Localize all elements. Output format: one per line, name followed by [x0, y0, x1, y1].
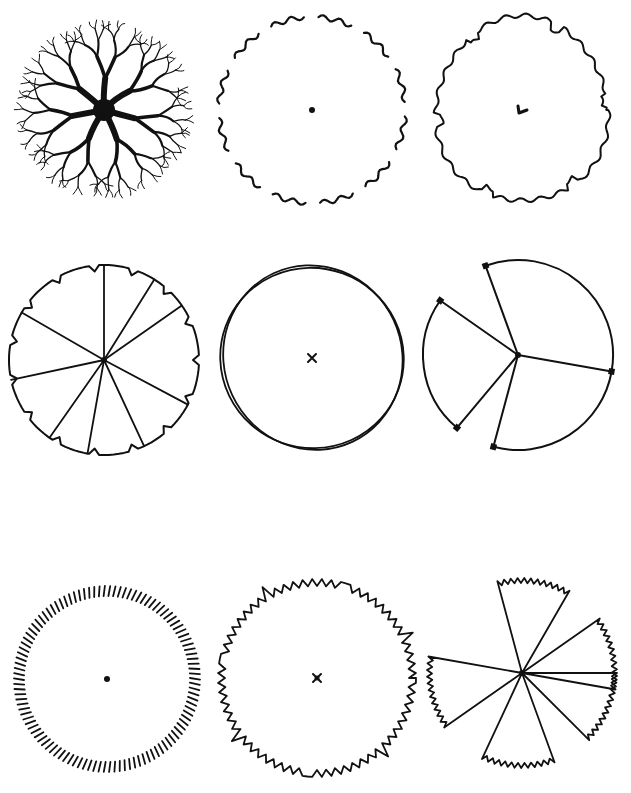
page-background	[0, 0, 631, 793]
tree-symbols-figure	[0, 0, 631, 793]
tick	[189, 669, 199, 670]
tick	[16, 699, 26, 700]
center-dot	[309, 107, 315, 113]
branch	[108, 177, 109, 189]
tick	[129, 759, 130, 769]
center-dot	[104, 676, 110, 682]
branch	[178, 88, 179, 97]
tick	[190, 673, 200, 674]
center-dot	[515, 352, 521, 358]
tick	[114, 762, 115, 772]
spoke-end-mark	[608, 368, 615, 375]
branch	[115, 139, 117, 162]
tick	[188, 659, 198, 660]
center-dot	[101, 357, 107, 363]
tick	[99, 586, 100, 596]
center-dot	[519, 670, 525, 676]
tick	[15, 689, 25, 690]
tick	[84, 589, 85, 599]
center-dot	[315, 676, 320, 681]
tick	[14, 684, 24, 685]
